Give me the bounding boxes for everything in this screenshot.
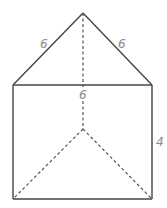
label-left-slant: 6 (40, 37, 48, 51)
label-height: 4 (156, 135, 164, 149)
left-slant-edge (13, 13, 83, 85)
hidden-right-base-edge (83, 129, 152, 199)
label-top-edge: 6 (79, 88, 87, 102)
triangular-prism-diagram: 6 6 6 4 (0, 0, 167, 208)
hidden-left-base-edge (13, 129, 83, 199)
label-right-slant: 6 (118, 37, 126, 51)
